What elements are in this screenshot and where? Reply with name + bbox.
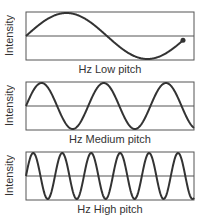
y-axis-label-medium: Intensity [3,82,17,130]
y-axis-label-low: Intensity [3,12,17,60]
wave-panel-low [26,12,194,60]
x-axis-label-medium: Hz Medium pitch [26,133,194,145]
end-dot [181,38,186,43]
y-axis-label-high: Intensity [3,152,17,200]
wave-panel-medium [26,82,194,130]
x-axis-label-low: Hz Low pitch [26,63,194,75]
waveform-diagram [0,0,207,223]
wave-panel-high [26,152,194,200]
x-axis-label-high: Hz High pitch [26,203,194,215]
